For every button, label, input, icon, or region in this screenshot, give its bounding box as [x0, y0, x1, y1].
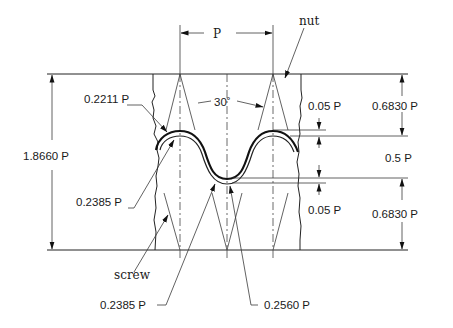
lower-height-label: 0.6830 P — [372, 208, 418, 220]
total-height-dimension: 1.8660 P — [23, 75, 69, 249]
clearance-top-dimension: 0.05 P — [308, 100, 342, 148]
clearance-bottom-label: 0.05 P — [308, 204, 342, 216]
root-radius-nut-label: 0.2560 P — [264, 299, 310, 311]
clearance-bottom-dimension: 0.05 P — [308, 165, 342, 216]
crest-radius-nut-label: 0.2211 P — [84, 93, 130, 105]
left-break-line — [152, 74, 159, 250]
crest-radius-screw-label: 0.2385 P — [76, 196, 122, 208]
screw-label: screw — [114, 268, 151, 282]
clearance-top-label: 0.05 P — [308, 100, 342, 112]
pitch-dimension: P — [180, 25, 273, 74]
lower-height-dimension: 0.6830 P — [372, 179, 418, 249]
thread-depth-label: 0.5 P — [385, 152, 412, 164]
nut-label: nut — [299, 14, 319, 28]
screw-callout: screw — [114, 215, 168, 282]
total-height-label: 1.8660 P — [23, 150, 69, 162]
thread-profile-diagram: P 1.8660 P 30˚ — [0, 0, 453, 328]
pitch-label: P — [213, 27, 221, 41]
radius-0.2385-crest-callout: 0.2385 P — [76, 140, 174, 208]
right-break-line — [297, 74, 302, 250]
radius-0.2211-callout: 0.2211 P — [84, 93, 167, 132]
nut-callout: nut — [285, 14, 319, 78]
upper-height-label: 0.6830 P — [372, 100, 418, 112]
root-radius-screw-label: 0.2385 P — [100, 299, 146, 311]
radius-0.2560-callout: 0.2560 P — [230, 186, 310, 311]
angle-label: 30˚ — [214, 96, 231, 108]
angle-annotation: 30˚ — [198, 96, 263, 108]
upper-height-dimension: 0.6830 P — [372, 75, 418, 135]
